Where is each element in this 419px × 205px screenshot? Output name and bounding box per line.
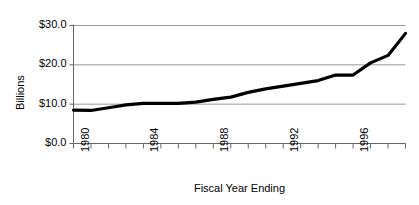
x-axis-title: Fiscal Year Ending <box>74 182 406 194</box>
x-tick-label: 1984 <box>148 127 160 151</box>
x-tick-label: 1996 <box>358 127 370 151</box>
gridlines <box>74 26 406 105</box>
x-tick-label: 1980 <box>79 127 91 151</box>
axis-lines <box>74 25 406 144</box>
y-tick-label: $20.0 <box>39 57 67 69</box>
series-line-billions <box>74 33 406 110</box>
y-tick-label: $10.0 <box>39 97 67 109</box>
x-tick-label: 1988 <box>218 127 230 151</box>
chart-container: $30.0$20.0$10.0$0.0 19801984198819921996… <box>0 0 419 205</box>
data-series-line <box>74 33 406 110</box>
y-axis-ticks <box>70 26 74 144</box>
x-axis-ticks <box>74 144 406 149</box>
y-tick-label: $0.0 <box>45 136 66 148</box>
x-tick-label: 1992 <box>288 127 300 151</box>
y-tick-label: $30.0 <box>39 18 67 30</box>
y-axis-title: Billions <box>14 75 26 110</box>
